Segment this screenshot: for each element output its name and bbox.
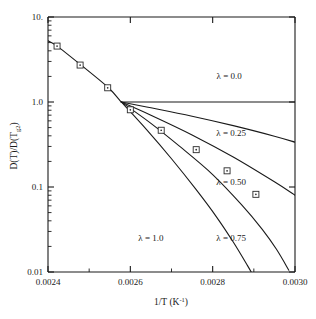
semilog-plot-figure: 0.010.11.010. 0.00240.00260.00280.0030 λ…: [0, 0, 316, 319]
marker-center-dot: [56, 45, 58, 47]
data-point-marker: [193, 147, 199, 153]
marker-center-dot: [129, 109, 131, 111]
data-point-marker: [158, 127, 164, 133]
data-point-marker: [54, 43, 60, 49]
label-lambda-0.75: λ = 0.75: [216, 233, 246, 243]
y-tick-label: 1.0: [32, 97, 44, 107]
data-point-marker: [224, 168, 230, 174]
data-point-marker: [105, 85, 111, 91]
marker-center-dot: [107, 87, 109, 89]
marker-center-dot: [79, 64, 81, 66]
x-tick-label: 0.0028: [200, 277, 225, 287]
y-tick-label: 0.1: [32, 182, 43, 192]
marker-center-dot: [255, 193, 257, 195]
data-point-marker: [127, 107, 133, 113]
label-lambda-0.50: λ = 0.50: [216, 177, 246, 187]
x-tick-label: 0.0026: [118, 277, 143, 287]
label-lambda-1.0: λ = 1.0: [138, 233, 164, 243]
marker-center-dot: [226, 170, 228, 172]
label-lambda-0.0: λ = 0.0: [217, 71, 243, 81]
y-tick-label: 10.: [32, 12, 43, 22]
x-tick-label: 0.0030: [283, 277, 308, 287]
label-lambda-0.25: λ = 0.25: [216, 128, 246, 138]
x-tick-label: 0.0024: [36, 277, 61, 287]
data-point-marker: [77, 62, 83, 68]
y-tick-label: 0.01: [27, 267, 43, 277]
data-point-marker: [253, 191, 259, 197]
marker-center-dot: [160, 129, 162, 131]
marker-center-dot: [195, 149, 197, 151]
figure-background: [0, 0, 316, 319]
